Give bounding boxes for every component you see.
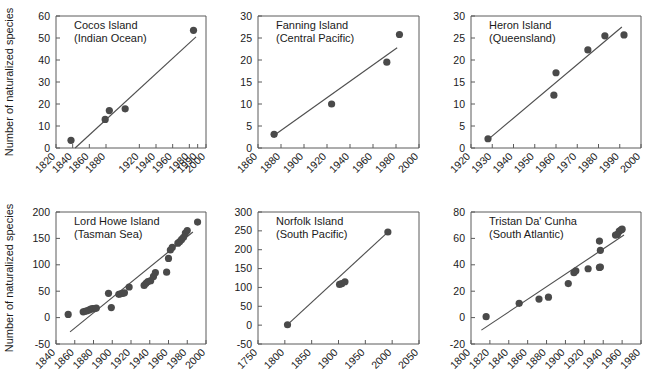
- x-tick-label: 1960: [349, 150, 374, 175]
- y-tick-label: 10: [38, 120, 50, 132]
- data-point: [122, 105, 129, 112]
- y-tick-label: 50: [38, 285, 50, 297]
- y-tick-label: 200: [32, 206, 50, 218]
- panel-subtitle: (South Atlantic): [489, 228, 564, 240]
- x-tick-label: 1880: [523, 346, 548, 371]
- y-tick-label: 0: [44, 311, 50, 323]
- y-tick-label: 50: [38, 32, 50, 44]
- plot-area-2: 0510152025301860188019001920194019601980…: [234, 10, 420, 175]
- x-tick-label: 1920: [303, 150, 328, 175]
- y-tick-label: 25: [240, 32, 252, 44]
- panel-subtitle: (Queensland): [489, 32, 556, 44]
- x-tick-label: 1920: [561, 346, 586, 371]
- x-tick-label: 1980: [164, 346, 189, 371]
- x-tick-label: 1980: [575, 150, 600, 175]
- y-tick-label: 40: [453, 258, 465, 270]
- data-point: [284, 321, 291, 328]
- data-point: [163, 269, 170, 276]
- data-point: [596, 237, 603, 244]
- x-tick-label: 1960: [145, 346, 170, 371]
- x-tick-label: 2050: [395, 346, 420, 371]
- y-tick-label: 40: [38, 54, 50, 66]
- data-point: [152, 269, 159, 276]
- y-axis-label: Number of naturalized species: [3, 203, 15, 352]
- x-tick-label: 1850: [288, 346, 313, 371]
- data-point: [105, 290, 112, 297]
- panel-title: Norfolk Island: [276, 215, 343, 227]
- y-tick-label: 50: [240, 300, 252, 312]
- data-point: [126, 283, 133, 290]
- chart-panel-5: -500501001502002503001750180018501900195…: [218, 196, 431, 392]
- y-tick-label: 0: [459, 311, 465, 323]
- y-tick-label: 100: [32, 258, 50, 270]
- chart-panel-2: 0510152025301860188019001920194019601980…: [218, 0, 431, 196]
- x-tick-label: 1880: [82, 150, 107, 175]
- data-point: [190, 27, 197, 34]
- x-tick-label: 1940: [490, 150, 515, 175]
- x-tick-label: 1980: [372, 150, 397, 175]
- x-tick-label: 1900: [280, 150, 305, 175]
- data-point: [619, 226, 626, 233]
- panel-title: Heron Island: [489, 19, 551, 31]
- figure-naturalized-species-panels: 0102030405060182018401860188019901920194…: [0, 0, 653, 392]
- plot-area-1: 0102030405060182018401860188019901920194…: [3, 7, 208, 175]
- x-tick-label: 1950: [342, 346, 367, 371]
- y-tick-label: 30: [38, 76, 50, 88]
- y-tick-label: 5: [459, 120, 465, 132]
- plot-area-4: -500501001502001840186018801900192019401…: [3, 203, 208, 371]
- x-tick-label: 1840: [485, 346, 510, 371]
- x-tick-label: 1920: [107, 346, 132, 371]
- y-tick-label: 150: [234, 262, 252, 274]
- x-tick-label: 1940: [126, 346, 151, 371]
- x-tick-label: 1860: [504, 346, 529, 371]
- data-point: [165, 255, 172, 262]
- x-tick-label: 1950: [511, 150, 536, 175]
- y-tick-label: 60: [453, 232, 465, 244]
- data-point: [108, 304, 115, 311]
- y-tick-label: 10: [240, 98, 252, 110]
- y-tick-label: 20: [453, 285, 465, 297]
- x-tick-label: 1900: [542, 346, 567, 371]
- x-tick-label: 1900: [89, 346, 114, 371]
- chart-panel-3: 0510152025301920193019401950196019701980…: [431, 0, 653, 196]
- y-tick-label: 20: [240, 54, 252, 66]
- x-tick-label: 1860: [234, 150, 259, 175]
- x-tick-label: 1960: [599, 346, 624, 371]
- data-point: [484, 135, 491, 142]
- x-tick-label: 2000: [369, 346, 394, 371]
- data-point: [384, 228, 391, 235]
- data-point: [483, 313, 490, 320]
- data-point: [93, 304, 100, 311]
- data-point: [601, 32, 608, 39]
- data-point: [535, 296, 542, 303]
- regression-line: [287, 232, 388, 326]
- y-tick-label: 250: [234, 224, 252, 236]
- x-tick-label: 1860: [51, 346, 76, 371]
- x-tick-label: 1940: [326, 150, 351, 175]
- regression-line: [272, 48, 397, 137]
- x-tick-label: 1970: [554, 150, 579, 175]
- y-tick-label: 30: [240, 10, 252, 22]
- regression-line: [486, 27, 622, 141]
- x-tick-label: 2000: [617, 150, 642, 175]
- data-point: [65, 311, 72, 318]
- x-tick-label: 1800: [261, 346, 286, 371]
- data-point: [585, 265, 592, 272]
- chart-panel-4: -500501001502001840186018801900192019401…: [0, 196, 218, 392]
- y-tick-label: 80: [453, 206, 465, 218]
- y-tick-label: 200: [234, 243, 252, 255]
- data-point: [584, 46, 591, 53]
- data-point: [106, 107, 113, 114]
- chart-panel-1: 0102030405060182018401860188019901920194…: [0, 0, 218, 196]
- y-tick-label: 30: [453, 10, 465, 22]
- x-tick-label: 1990: [596, 150, 621, 175]
- x-tick-label: 1930: [469, 150, 494, 175]
- data-point: [550, 92, 557, 99]
- plot-area-5: -500501001502002503001750180018501900195…: [234, 206, 420, 371]
- chart-panel-6: -200204060801800182018401860188019001920…: [431, 196, 653, 392]
- y-tick-label: 10: [453, 98, 465, 110]
- y-tick-label: 60: [38, 10, 50, 22]
- panel-title: Lord Howe Island: [74, 215, 160, 227]
- panel-subtitle: (Tasman Sea): [74, 228, 142, 240]
- x-tick-label: 1900: [315, 346, 340, 371]
